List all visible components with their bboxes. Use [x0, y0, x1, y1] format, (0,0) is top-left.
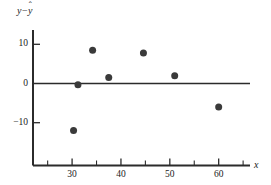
- circumflex-accent-icon: ˆ: [29, 1, 32, 10]
- y-axis-title: y−ˆy: [17, 6, 33, 16]
- y-axis-tick-label: 10: [0, 39, 28, 49]
- data-point: [171, 72, 178, 79]
- data-point: [74, 81, 81, 88]
- y-axis-tick-label: −10: [0, 118, 28, 128]
- x-axis-tick-label: 30: [52, 170, 92, 180]
- residual-plot-figure: y−ˆy x 100−1030405060: [0, 0, 271, 185]
- data-point: [140, 49, 147, 56]
- scatter-plot-canvas: [0, 0, 271, 185]
- x-axis-tick-label: 60: [199, 170, 239, 180]
- data-point: [105, 74, 112, 81]
- x-axis-tick-label: 50: [150, 170, 190, 180]
- x-axis-title: x: [254, 160, 258, 170]
- data-point: [215, 104, 222, 111]
- x-axis-tick-label: 40: [101, 170, 141, 180]
- y-axis-tick-label: 0: [0, 79, 28, 89]
- data-point: [89, 47, 96, 54]
- y-axis-title-second-term-wrap: ˆy: [28, 6, 32, 16]
- data-point: [70, 127, 77, 134]
